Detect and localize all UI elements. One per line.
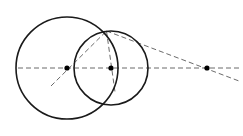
geometry-figure xyxy=(0,0,243,136)
geometry-canvas xyxy=(0,0,243,136)
left-center-point xyxy=(64,65,69,70)
right-external-point xyxy=(204,65,209,70)
middle-center-point xyxy=(108,65,113,70)
